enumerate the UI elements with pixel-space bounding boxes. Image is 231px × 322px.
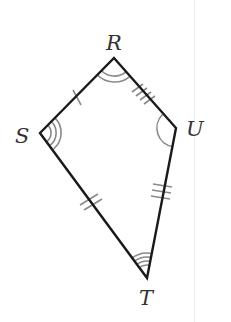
kite-outline <box>40 58 176 278</box>
vertex-label-s: S <box>15 124 29 148</box>
vertex-label-t: T <box>139 286 155 310</box>
vertex-label-u: U <box>186 117 205 141</box>
angle-u-arcs <box>157 115 173 147</box>
vertex-label-r: R <box>105 31 122 55</box>
kite-diagram: R S U T <box>0 0 231 322</box>
tick-marks <box>73 84 172 210</box>
